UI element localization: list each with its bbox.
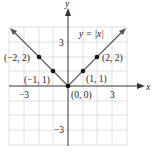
x-tick-3: 3: [110, 90, 115, 100]
x-axis-arrow-icon: [137, 83, 145, 89]
point-neg2-2: [37, 55, 42, 60]
y-axis-label: y: [64, 0, 70, 9]
y-tick-3: 3: [59, 38, 64, 48]
function-label: y = |x|: [78, 29, 104, 39]
y-tick-neg3: −3: [54, 125, 64, 135]
x-axis-label: x: [145, 82, 151, 92]
point-label-neg1-1: (−1, 1): [24, 75, 50, 86]
point-2-2: [95, 55, 100, 60]
point-1-1: [81, 69, 86, 74]
x-tick-neg3: −3: [19, 90, 29, 100]
point-label-1-1: (1, 1): [86, 74, 107, 85]
point-label-2-2: (2, 2): [102, 53, 123, 64]
graph: x y −3 3 3 −3 y = |x| (−2, 2) (−1, 1) (0…: [0, 0, 153, 152]
point-0-0: [66, 84, 71, 89]
point-neg1-1: [51, 69, 56, 74]
point-label-0-0: (0, 0): [71, 90, 92, 101]
y-axis-arrow-icon: [65, 8, 71, 16]
point-label-neg2-2: (−2, 2): [4, 53, 30, 64]
